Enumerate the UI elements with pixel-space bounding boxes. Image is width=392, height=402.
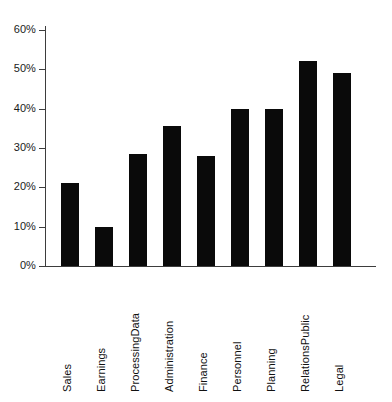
bar[interactable] — [231, 109, 249, 266]
bar[interactable] — [265, 109, 283, 266]
bar[interactable] — [333, 73, 351, 266]
bar[interactable] — [163, 126, 181, 266]
bar[interactable] — [95, 227, 113, 266]
bar[interactable] — [299, 61, 317, 266]
bar[interactable] — [61, 183, 79, 266]
bar[interactable] — [129, 154, 147, 266]
bar-chart: 0%10%20%30%40%50%60% SalesEarningsDataPr… — [0, 0, 392, 402]
bar-series — [0, 0, 392, 402]
bar[interactable] — [197, 156, 215, 266]
